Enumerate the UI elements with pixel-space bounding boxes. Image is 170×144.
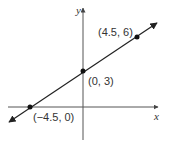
coordinate-plane: x y (−4.5, 0) (0, 3) (4.5, 6) <box>0 0 170 144</box>
point-label-4.5-6: (4.5, 6) <box>98 26 133 38</box>
point-label-0-3: (0, 3) <box>88 75 114 87</box>
point-label-neg4.5-0: (−4.5, 0) <box>33 111 74 123</box>
point-0-3 <box>81 69 86 74</box>
y-axis-label: y <box>75 4 81 16</box>
point-4.5-6 <box>135 35 140 40</box>
x-axis-label: x <box>153 110 159 122</box>
point-neg4.5-0 <box>28 105 33 110</box>
